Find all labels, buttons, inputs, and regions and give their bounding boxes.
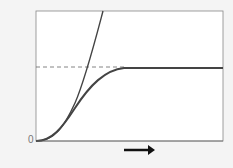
arrow-right-icon [124,145,155,155]
origin-label: 0 [28,134,34,145]
plot-area [36,11,223,141]
chart [0,0,233,168]
